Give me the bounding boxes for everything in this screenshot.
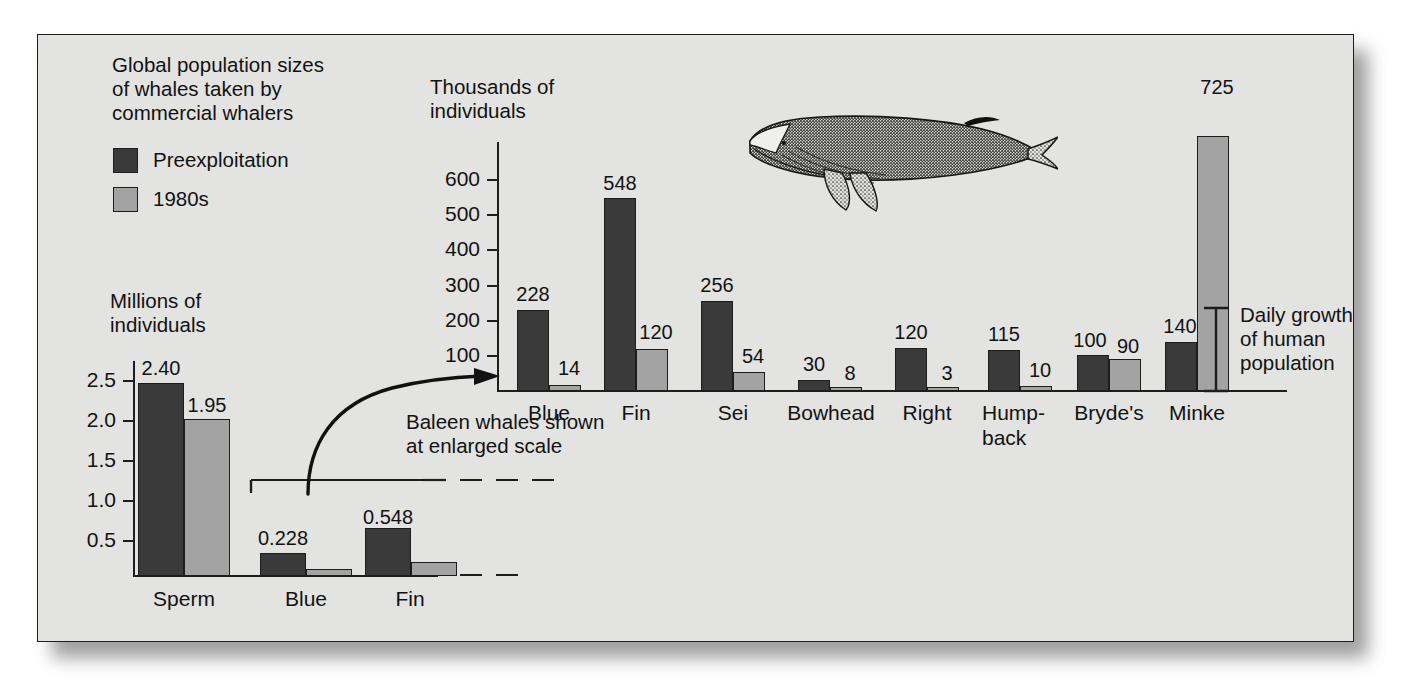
thousands-group-fin xyxy=(604,198,668,391)
thousands-ytick-label-200: 200 xyxy=(416,308,480,333)
human-population-marker-icon xyxy=(1198,305,1234,395)
thousands-chart: 100 200 300 400 500 600 228 14 548 120 xyxy=(38,35,1353,641)
thousands-bar-bowhead-preexploitation xyxy=(798,380,830,391)
thousands-value-fin-1980s: 120 xyxy=(634,321,678,345)
thousands-bar-brydes-preexploitation xyxy=(1077,355,1109,391)
thousands-value-fin-preexploitation: 548 xyxy=(598,172,642,196)
thousands-tick-500 xyxy=(487,214,499,216)
thousands-value-sei-preexploitation: 256 xyxy=(695,274,739,298)
human-population-note: Daily growth of human population xyxy=(1240,303,1354,376)
thousands-cat-label-right: Right xyxy=(895,401,959,426)
figure-root: Global population sizes of whales taken … xyxy=(0,0,1406,697)
thousands-cat-label-humpback: Hump- back xyxy=(982,401,1058,451)
thousands-bar-humpback-1980s xyxy=(1020,386,1052,391)
thousands-ytick-label-500: 500 xyxy=(416,202,480,227)
thousands-ytick-label-100: 100 xyxy=(416,343,480,368)
thousands-ytick-label-600: 600 xyxy=(416,167,480,192)
thousands-tick-600 xyxy=(487,179,499,181)
thousands-bar-sei-preexploitation xyxy=(701,301,733,391)
thousands-cat-label-brydes: Bryde's xyxy=(1071,401,1147,426)
thousands-bar-fin-preexploitation xyxy=(604,198,636,391)
thousands-bar-right-preexploitation xyxy=(895,348,927,391)
thousands-cat-label-fin: Fin xyxy=(604,401,668,426)
thousands-cat-label-sei: Sei xyxy=(701,401,765,426)
thousands-bar-humpback-preexploitation xyxy=(988,350,1020,391)
thousands-tick-300 xyxy=(487,285,499,287)
thousands-bar-right-1980s xyxy=(927,387,959,391)
thousands-tick-200 xyxy=(487,320,499,322)
thousands-value-right-1980s: 3 xyxy=(925,362,969,386)
thousands-bar-sei-1980s xyxy=(733,372,765,391)
thousands-value-bowhead-1980s: 8 xyxy=(828,362,872,386)
thousands-value-minke-preexploitation: 140 xyxy=(1158,315,1202,339)
thousands-bar-minke-preexploitation xyxy=(1165,342,1197,391)
thousands-tick-400 xyxy=(487,249,499,251)
thousands-group-brydes xyxy=(1077,355,1141,391)
thousands-ytick-label-400: 400 xyxy=(416,237,480,262)
thousands-value-blue-1980s: 14 xyxy=(547,357,591,381)
thousands-ytick-label-300: 300 xyxy=(416,273,480,298)
thousands-value-brydes-1980s: 90 xyxy=(1106,335,1150,359)
thousands-value-right-preexploitation: 120 xyxy=(889,321,933,345)
thousands-bar-fin-1980s xyxy=(636,349,668,391)
thousands-value-humpback-1980s: 10 xyxy=(1018,359,1062,383)
thousands-bar-bowhead-1980s xyxy=(830,387,862,391)
thousands-bar-blue-1980s xyxy=(549,385,581,391)
thousands-cat-label-blue: Blue xyxy=(517,401,581,426)
humpback-whale-illustration xyxy=(728,93,1058,213)
thousands-value-minke-1980s: 725 xyxy=(1195,76,1239,100)
thousands-tick-100 xyxy=(487,355,499,357)
thousands-cat-label-minke: Minke xyxy=(1165,401,1229,426)
thousands-value-sei-1980s: 54 xyxy=(731,345,775,369)
figure-frame: Global population sizes of whales taken … xyxy=(37,34,1354,642)
thousands-value-humpback-preexploitation: 115 xyxy=(982,323,1026,347)
thousands-cat-label-bowhead: Bowhead xyxy=(781,401,881,426)
thousands-value-blue-preexploitation: 228 xyxy=(511,283,555,307)
thousands-bar-brydes-1980s xyxy=(1109,359,1141,391)
thousands-bar-blue-preexploitation xyxy=(517,310,549,391)
